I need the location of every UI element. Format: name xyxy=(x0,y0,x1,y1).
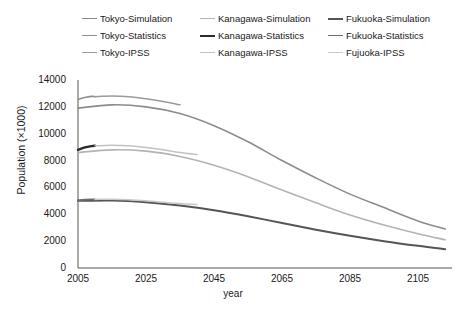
legend-line-icon xyxy=(200,35,215,37)
legend-row: Tokyo-StatisticsKanagawa-StatisticsFukuo… xyxy=(82,27,454,44)
legend-line-icon xyxy=(82,35,97,36)
legend-label: Fukuoka-Statistics xyxy=(346,31,424,41)
legend-row: Tokyo-IPSSKanagawa-IPSSFujuoka-IPSS xyxy=(82,44,454,61)
series-line xyxy=(78,199,95,200)
legend-item[interactable]: Kanagawa-IPSS xyxy=(200,48,328,58)
legend-line-icon xyxy=(82,52,97,53)
legend-line-icon xyxy=(328,35,343,36)
legend-label: Tokyo-Simulation xyxy=(100,14,172,24)
legend-item[interactable]: Tokyo-Simulation xyxy=(82,14,200,24)
legend-line-icon xyxy=(328,18,343,20)
legend-line-icon xyxy=(200,18,215,19)
series-line xyxy=(78,150,445,240)
legend-label: Kanagawa-Statistics xyxy=(218,31,304,41)
axis-lines xyxy=(78,80,452,268)
legend-row: Tokyo-SimulationKanagawa-SimulationFukuo… xyxy=(82,10,454,27)
chart-figure: Tokyo-SimulationKanagawa-SimulationFukuo… xyxy=(0,0,466,316)
series-line xyxy=(78,105,445,229)
legend-item[interactable]: Tokyo-Statistics xyxy=(82,31,200,41)
legend-label: Tokyo-Statistics xyxy=(100,31,166,41)
legend-line-icon xyxy=(328,52,343,53)
legend-label: Kanagawa-IPSS xyxy=(218,48,288,58)
series-line xyxy=(95,96,180,105)
legend-item[interactable]: Tokyo-IPSS xyxy=(82,48,200,58)
legend-item[interactable]: Kanagawa-Simulation xyxy=(200,14,328,24)
legend-item[interactable]: Fukuoka-Statistics xyxy=(328,31,454,41)
chart-canvas xyxy=(0,62,466,316)
series-line xyxy=(78,200,445,249)
legend-label: Tokyo-IPSS xyxy=(100,48,150,58)
legend-label: Fukuoka-Simulation xyxy=(346,14,430,24)
legend-label: Kanagawa-Simulation xyxy=(218,14,310,24)
legend-item[interactable]: Kanagawa-Statistics xyxy=(200,31,328,41)
chart-legend: Tokyo-SimulationKanagawa-SimulationFukuo… xyxy=(82,10,454,62)
legend-item[interactable]: Fujuoka-IPSS xyxy=(328,48,454,58)
legend-line-icon xyxy=(82,18,97,19)
series-line xyxy=(78,146,95,150)
plot-area: Population (×1000) year 0200040006000800… xyxy=(0,62,466,316)
legend-line-icon xyxy=(200,52,215,53)
legend-label: Fujuoka-IPSS xyxy=(346,48,405,58)
series-line xyxy=(78,96,95,99)
legend-item[interactable]: Fukuoka-Simulation xyxy=(328,14,454,24)
